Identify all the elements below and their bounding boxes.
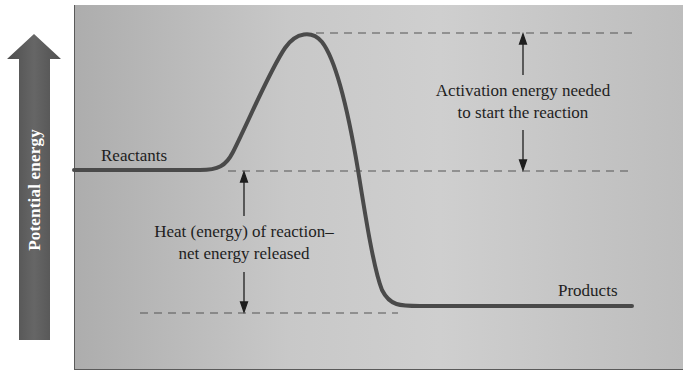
activation-energy-label: Activation energy needed to start the re…: [415, 80, 631, 124]
activation-label-line2: to start the reaction: [415, 102, 631, 124]
products-label: Products: [558, 280, 618, 302]
heat-label-line1: Heat (energy) of reaction–: [128, 221, 360, 243]
reactants-label: Reactants: [101, 145, 167, 167]
reaction-curve: [74, 34, 632, 306]
heat-label-line2: net energy released: [128, 243, 360, 265]
heat-of-reaction-label: Heat (energy) of reaction– net energy re…: [128, 221, 360, 265]
energy-diagram: [0, 0, 686, 376]
activation-label-line1: Activation energy needed: [415, 80, 631, 102]
